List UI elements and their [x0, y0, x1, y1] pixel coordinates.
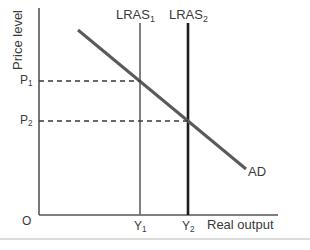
y1-label-text: Y [134, 219, 142, 233]
y1-axis-tick-label: Y1 [134, 220, 147, 232]
diagram-canvas [0, 0, 310, 250]
y2-axis-tick-label: Y2 [182, 220, 195, 232]
lras1-label-text: LRAS [116, 7, 150, 22]
p2-label-subscript: 2 [28, 119, 33, 128]
origin-label: O [22, 215, 31, 227]
p1-axis-tick-label: P1 [20, 74, 33, 86]
p1-label-subscript: 1 [28, 79, 33, 88]
lras1-label-subscript: 1 [150, 14, 155, 24]
y1-label-subscript: 1 [142, 225, 147, 234]
p2-label-text: P [20, 113, 28, 127]
x-axis-title: Real output [207, 218, 274, 231]
y2-label-text: Y [182, 219, 190, 233]
y2-label-subscript: 2 [190, 225, 195, 234]
lras2-label-text: LRAS [169, 7, 203, 22]
lras1-curve-label: LRAS1 [116, 8, 155, 21]
ad-curve [78, 30, 246, 169]
lras2-curve-label: LRAS2 [169, 8, 208, 21]
ad-curve-label: AD [248, 165, 266, 178]
lras2-label-subscript: 2 [203, 14, 208, 24]
p2-axis-tick-label: P2 [20, 114, 33, 126]
lras-ad-diagram: Price level Real output O LRAS1 LRAS2 AD… [0, 0, 310, 250]
p1-label-text: P [20, 73, 28, 87]
y-axis-title: Price level [11, 10, 24, 70]
